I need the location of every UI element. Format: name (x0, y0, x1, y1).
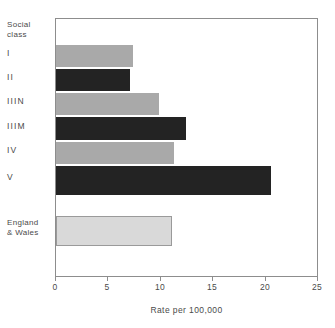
tick-label-10: 10 (155, 282, 165, 292)
y-axis-header: Social class (7, 20, 53, 40)
plot-area (55, 18, 318, 277)
category-label-iiim: IIIM (7, 121, 53, 131)
category-label-v: V (7, 172, 53, 182)
x-axis-title-wrapper: Rate per 100,000 (0, 305, 335, 315)
tick-mark-5 (107, 277, 108, 281)
category-label-iiin: IIIN (7, 96, 53, 106)
tick-label-0: 0 (52, 282, 57, 292)
bar-iiin (56, 93, 159, 115)
x-axis-ticks (55, 277, 318, 282)
bar-chart-figure: Social class I II IIIN IIIM IV V England… (0, 0, 335, 328)
tick-label-20: 20 (260, 282, 270, 292)
bar-iv (56, 142, 174, 164)
tick-mark-10 (160, 277, 161, 281)
tick-mark-20 (265, 277, 266, 281)
category-label-i: I (7, 48, 53, 58)
bar-iiim (56, 117, 186, 140)
bar-ii (56, 69, 130, 91)
tick-mark-0 (55, 277, 56, 281)
bar-england-wales (56, 216, 172, 246)
tick-label-5: 5 (104, 282, 109, 292)
x-axis-title: Rate per 100,000 (150, 305, 222, 315)
bar-v (56, 166, 271, 195)
category-label-ii: II (7, 72, 53, 82)
tick-label-25: 25 (312, 282, 322, 292)
tick-mark-25 (317, 277, 318, 281)
bar-i (56, 45, 133, 67)
tick-label-15: 15 (207, 282, 217, 292)
tick-mark-15 (212, 277, 213, 281)
category-label-iv: IV (7, 145, 53, 155)
category-label-england-wales: England & Wales (7, 218, 53, 238)
